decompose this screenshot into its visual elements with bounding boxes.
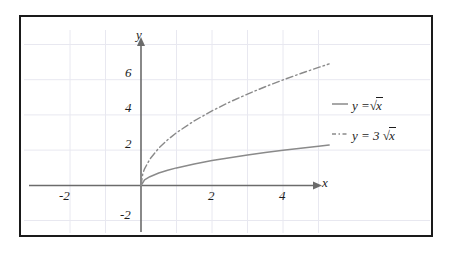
y-tick-label-6: 6 (125, 66, 132, 79)
legend-swatches (332, 104, 348, 134)
y-tick-label--2: -2 (120, 208, 131, 221)
x-tick-label-2: 2 (208, 189, 215, 202)
x-axis-label: x (322, 176, 328, 189)
legend-label-3-sqrt-x: y = 3 √x (352, 128, 396, 144)
legend-lhs-1: y = (352, 98, 370, 113)
legend-item-sqrt-x: y =√x (352, 96, 430, 126)
legend-radicand-2: x (389, 127, 396, 143)
axis-lines (29, 46, 313, 232)
y-tick-label-2: 2 (125, 137, 132, 150)
legend-coefficient-2: 3 (373, 128, 380, 143)
x-tick-label--2: -2 (59, 189, 70, 202)
figure-container: -2 2 4 6 4 2 -2 x y y =√x y = 3 √x (0, 0, 452, 258)
x-tick-label-4: 4 (279, 189, 286, 202)
legend-label-sqrt-x: y =√x (352, 98, 383, 114)
legend-lhs-2: y = (352, 128, 370, 143)
legend-item-3-sqrt-x: y = 3 √x (352, 126, 430, 156)
legend-radicand-1: x (376, 97, 383, 113)
chart-legend: y =√x y = 3 √x (352, 96, 430, 156)
y-axis-label: y (136, 28, 142, 41)
y-tick-label-4: 4 (125, 101, 132, 114)
curve-y-equals-sqrt-x (141, 145, 329, 186)
curve-y-equals-3-sqrt-x (141, 64, 329, 186)
x-axis-arrowhead (313, 182, 322, 190)
